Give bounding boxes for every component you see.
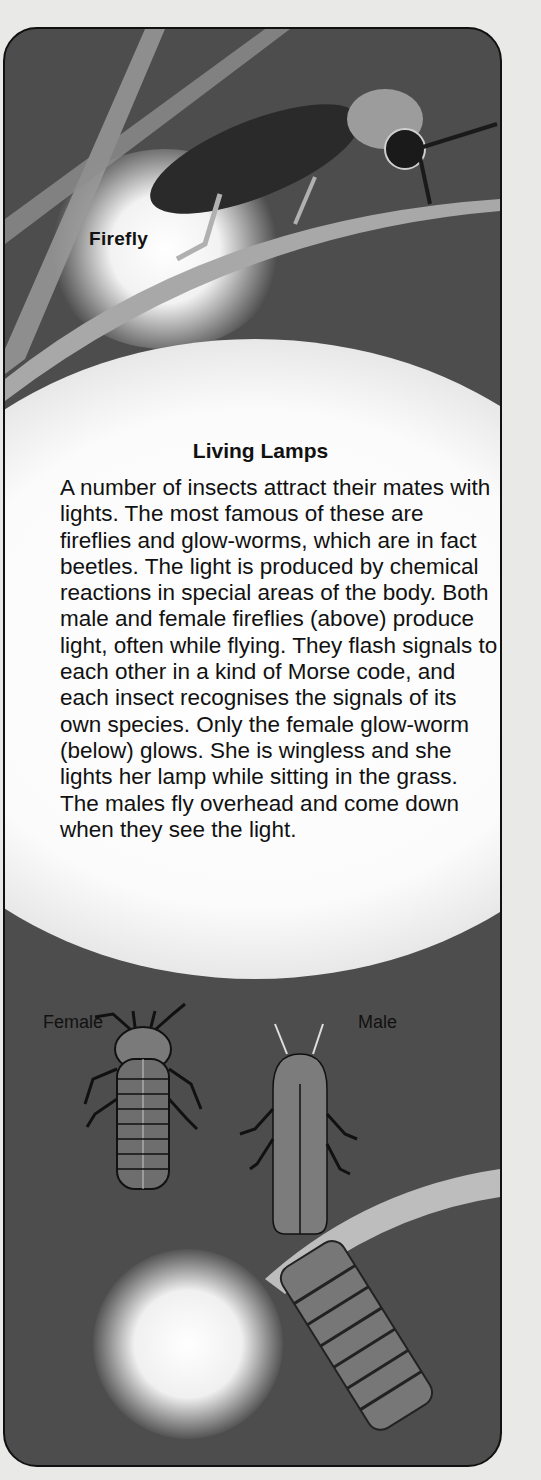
article-body: A number of insects attract their mates … (60, 475, 500, 843)
female-caption: Female (43, 1012, 103, 1033)
male-caption: Male (358, 1012, 397, 1033)
male-glow-worm-icon (240, 1024, 357, 1234)
article-title: Living Lamps (13, 439, 502, 463)
firefly-caption: Firefly (89, 228, 148, 250)
grass-blades-top-icon (5, 29, 500, 401)
living-lamps-panel: Firefly Living Lamps A number of insects… (3, 27, 502, 1467)
